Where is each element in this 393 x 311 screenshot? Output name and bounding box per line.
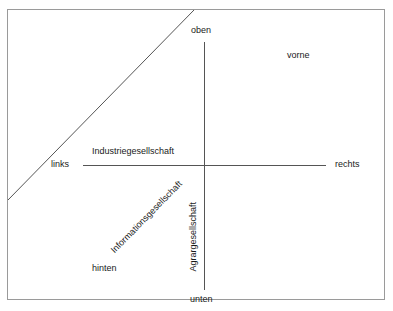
- axis-end-label-hinten: hinten: [92, 264, 117, 273]
- diagonal-axis-stroke: [8, 10, 194, 200]
- diagonal-axis-svg: [8, 10, 194, 200]
- axis-end-label-rechts: rechts: [335, 160, 360, 169]
- axis-label-agrargesellschaft: Agrargesellschaft: [189, 202, 198, 272]
- axis-end-label-links: links: [51, 160, 69, 169]
- axis-end-label-oben: oben: [191, 26, 211, 35]
- diagonal-axis-line: [8, 10, 194, 200]
- axis-end-label-vorne: vorne: [287, 51, 310, 60]
- diagram-canvas: oben unten links rechts vorne hinten Ind…: [0, 0, 393, 311]
- axis-end-label-unten: unten: [190, 295, 213, 304]
- axis-label-industriegesellschaft: Industriegesellschaft: [92, 147, 174, 156]
- vertical-axis-line: [204, 42, 205, 290]
- diagram-frame: oben unten links rechts vorne hinten Ind…: [7, 9, 385, 300]
